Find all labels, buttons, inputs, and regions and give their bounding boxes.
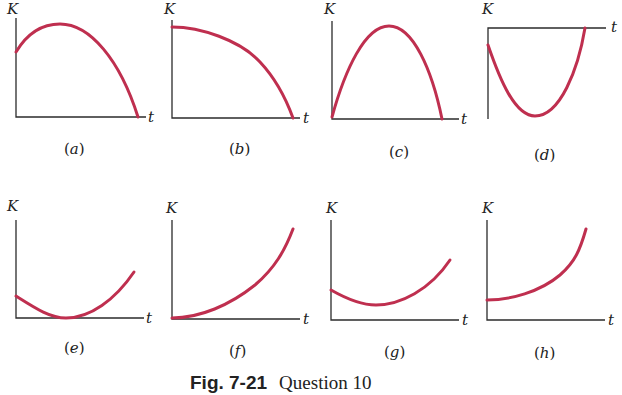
x-axis-label: t bbox=[462, 311, 469, 329]
x-axis-label: t bbox=[146, 309, 153, 327]
x-axis-label: t bbox=[461, 110, 468, 128]
figure-7-21: K t (a) K t (b) K t (c) K t (d) K t (e) bbox=[0, 0, 622, 395]
y-axis-label: K bbox=[325, 199, 338, 217]
caption-text: Question 10 bbox=[279, 372, 371, 393]
y-axis-label: K bbox=[165, 199, 178, 217]
y-axis-label: K bbox=[163, 0, 176, 18]
x-axis-label: t bbox=[608, 311, 615, 329]
panel-a: K t (a) bbox=[6, 0, 155, 158]
y-axis-label: K bbox=[481, 199, 494, 217]
axes bbox=[16, 220, 144, 318]
panel-label-g: (g) bbox=[384, 343, 405, 361]
axes bbox=[488, 28, 606, 119]
x-axis-label: t bbox=[148, 108, 155, 126]
x-axis-label: t bbox=[303, 310, 310, 328]
panel-label-e: (e) bbox=[64, 339, 85, 357]
y-axis-label: K bbox=[481, 0, 494, 18]
axes bbox=[172, 220, 300, 319]
curve-b bbox=[172, 27, 293, 118]
axes bbox=[172, 20, 300, 118]
x-axis-label: t bbox=[611, 18, 618, 36]
curve-g bbox=[331, 260, 450, 305]
panel-h: K t (h) bbox=[481, 199, 615, 362]
curve-a bbox=[16, 24, 138, 117]
curve-f bbox=[172, 229, 293, 318]
panel-e: K t (e) bbox=[6, 197, 153, 357]
axes bbox=[331, 220, 459, 320]
panel-label-h: (h) bbox=[534, 344, 555, 362]
panel-g: K t (g) bbox=[325, 199, 469, 361]
panel-c: K t (c) bbox=[323, 0, 468, 161]
panel-label-c: (c) bbox=[389, 143, 409, 161]
figure-number: Fig. 7-21 bbox=[190, 372, 267, 393]
curve-h bbox=[487, 229, 586, 300]
axes bbox=[487, 220, 605, 320]
y-axis-label: K bbox=[6, 0, 19, 18]
y-axis-label: K bbox=[323, 0, 336, 18]
panel-label-b: (b) bbox=[229, 140, 250, 158]
curve-c bbox=[332, 26, 442, 119]
panel-b: K t (b) bbox=[163, 0, 310, 158]
curve-e bbox=[16, 272, 134, 318]
figure-caption: Fig. 7-21Question 10 bbox=[190, 372, 371, 394]
axes bbox=[16, 18, 146, 117]
panel-label-f: (f) bbox=[229, 342, 246, 360]
curve-d bbox=[488, 28, 585, 116]
panel-d: K t (d) bbox=[481, 0, 618, 164]
panel-label-a: (a) bbox=[64, 140, 85, 158]
panel-f: K t (f) bbox=[165, 199, 310, 360]
y-axis-label: K bbox=[6, 197, 19, 215]
panel-label-d: (d) bbox=[534, 146, 555, 164]
x-axis-label: t bbox=[303, 109, 310, 127]
